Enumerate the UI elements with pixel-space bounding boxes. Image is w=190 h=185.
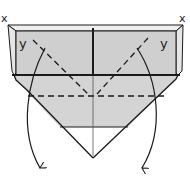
origami-diagram: x x y y <box>0 0 190 185</box>
flap-face-left <box>16 31 93 75</box>
flap-left-side <box>8 25 16 75</box>
label-x-left: x <box>1 12 8 25</box>
top-flap <box>8 25 183 75</box>
label-y-right: y <box>160 36 168 51</box>
paper-lower-triangle <box>60 127 128 158</box>
label-y-left: y <box>19 36 27 51</box>
flap-right-side <box>176 25 183 75</box>
label-x-right: x <box>179 12 186 25</box>
flap-top-edge <box>8 25 183 31</box>
